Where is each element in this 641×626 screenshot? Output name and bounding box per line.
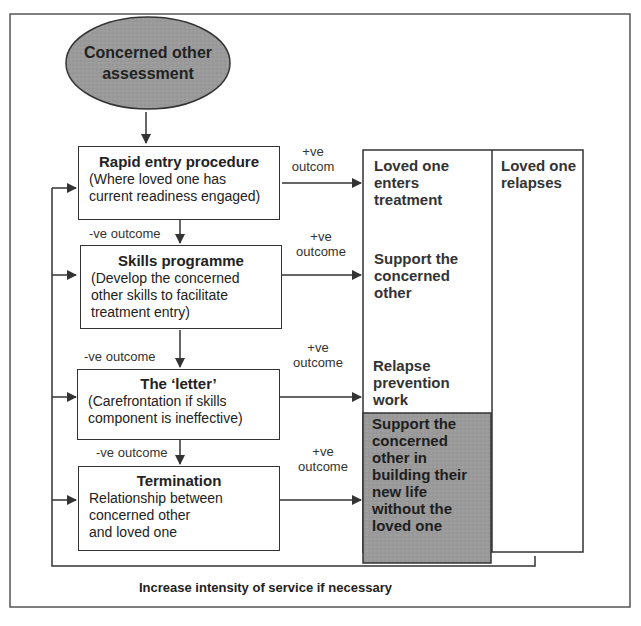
outcome-line: loved one	[372, 517, 442, 534]
outcome-line: concerned	[374, 267, 450, 284]
relapse-line: relapses	[501, 174, 562, 191]
positive-outcome-label: +ve outcome	[297, 444, 349, 474]
step-title: Termination	[79, 472, 279, 490]
outcome-new-life: Support the concerned other in building …	[372, 415, 467, 534]
start-node-line2: assessment	[102, 65, 194, 82]
outcome-support-concerned-other: Support the concerned other	[374, 250, 458, 301]
outcome-line: enters	[374, 174, 419, 191]
negative-outcome-label: -ve outcome	[84, 349, 156, 364]
positive-label-line: +ve	[310, 229, 331, 244]
step-title: Skills programme	[81, 252, 281, 270]
outcome-line: Support the	[372, 415, 456, 432]
outcome-line: concerned	[372, 432, 448, 449]
negative-outcome-label: -ve outcome	[96, 445, 168, 460]
start-node-line1: Concerned other	[84, 44, 212, 61]
outcome-line: other in	[372, 449, 427, 466]
outcome-line: treatment	[374, 191, 442, 208]
positive-label-line: outcome	[298, 459, 348, 474]
outcome-line: Loved one	[374, 157, 449, 174]
outcome-line: without the	[372, 500, 452, 517]
positive-label-line: outcome	[296, 244, 346, 259]
outcome-line: new life	[372, 483, 427, 500]
step-text: and loved one	[89, 524, 279, 541]
outcome-line: other	[374, 284, 412, 301]
positive-label-line: +ve	[302, 144, 323, 159]
step-title: Rapid entry procedure	[79, 153, 279, 171]
positive-outcome-label: +ve outcome	[292, 340, 344, 370]
step-text: current readiness engaged)	[89, 188, 279, 205]
step-text: component is ineffective)	[88, 410, 279, 427]
feedback-loop-label: Increase intensity of service if necessa…	[139, 580, 392, 595]
step-text: (Where loved one has	[89, 171, 279, 188]
step-text: (Develop the concerned	[91, 270, 281, 287]
positive-label-line: +ve	[307, 340, 328, 355]
outcome-line: prevention	[373, 374, 450, 391]
outcome-relapse-prevention: Relapse prevention work	[373, 357, 450, 408]
step-text: (Carefrontation if skills	[88, 393, 279, 410]
step-text: concerned other	[89, 507, 279, 524]
outcome-line: work	[373, 391, 408, 408]
step-text: treatment entry)	[91, 304, 281, 321]
relapse-column-label: Loved one relapses	[501, 157, 576, 191]
positive-label-line: +ve	[312, 444, 333, 459]
start-node-label: Concerned other assessment	[70, 42, 226, 84]
negative-outcome-label: -ve outcome	[89, 226, 161, 241]
step-text: Relationship between	[89, 490, 279, 507]
positive-label-line: outcome	[293, 355, 343, 370]
positive-outcome-label: +ve outcom	[288, 144, 338, 174]
step-text: other skills to facilitate	[91, 287, 281, 304]
positive-label-line: outcom	[292, 159, 335, 174]
step-rapid-entry: Rapid entry procedure (Where loved one h…	[78, 146, 280, 220]
outcome-line: Relapse	[373, 357, 431, 374]
outcome-line: building their	[372, 466, 467, 483]
step-skills-programme: Skills programme (Develop the concerned …	[80, 245, 282, 329]
step-title: The ‘letter’	[78, 375, 279, 393]
outcome-line: Support the	[374, 250, 458, 267]
positive-outcome-label: +ve outcome	[295, 229, 347, 259]
relapse-line: Loved one	[501, 157, 576, 174]
step-the-letter: The ‘letter’ (Carefrontation if skills c…	[77, 369, 280, 440]
step-termination: Termination Relationship between concern…	[78, 466, 280, 551]
outcome-enters-treatment: Loved one enters treatment	[374, 157, 449, 208]
